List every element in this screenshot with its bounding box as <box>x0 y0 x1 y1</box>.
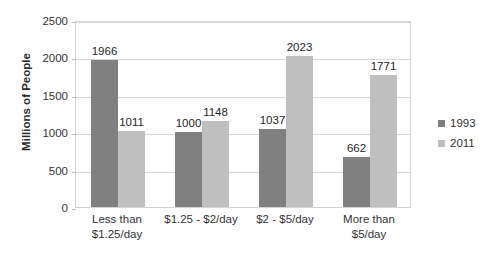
bar <box>118 131 145 207</box>
legend-item[interactable]: 2011 <box>438 133 502 153</box>
bar <box>286 56 313 207</box>
bar-value-label: 1000 <box>176 117 202 129</box>
legend-label: 1993 <box>450 117 476 129</box>
x-axis-category-labels: Less than$1.25/day$1.25 - $2/day$2 - $5/… <box>75 212 411 264</box>
bar <box>91 60 118 207</box>
bar-value-label: 1966 <box>92 45 118 57</box>
x-axis-category-label: $1.25 - $2/day <box>164 212 238 227</box>
bars-layer: 1966101110001148103720236621771 <box>76 22 410 207</box>
bar-value-label: 2023 <box>287 41 313 53</box>
y-axis-tick-mark <box>72 209 76 210</box>
bar <box>259 129 286 207</box>
bar <box>175 132 202 207</box>
legend-swatch-icon <box>438 120 445 127</box>
x-axis-category-label: $2 - $5/day <box>256 212 314 227</box>
bar <box>343 157 370 207</box>
bar-value-label: 1771 <box>371 60 397 72</box>
legend-swatch-icon <box>438 140 445 147</box>
bar-chart: Millions of People 05001000150020002500 … <box>0 0 504 268</box>
x-axis-category-label: More than$5/day <box>343 212 395 242</box>
bar <box>370 75 397 207</box>
bar-value-label: 1148 <box>203 106 228 118</box>
bar <box>202 121 229 207</box>
y-axis-tick-label: 1500 <box>22 90 68 102</box>
plot-area: 1966101110001148103720236621771 <box>75 21 411 208</box>
y-axis-tick-label: 0 <box>22 202 68 214</box>
bar-value-label: 1037 <box>260 114 286 126</box>
y-axis-tick-label: 1000 <box>22 127 68 139</box>
y-axis-tick-label: 2000 <box>22 52 68 64</box>
legend-label: 2011 <box>450 137 475 149</box>
bar-value-label: 1011 <box>119 116 144 128</box>
y-axis-tick-labels: 05001000150020002500 <box>22 0 68 268</box>
x-axis-category-label: Less than$1.25/day <box>92 212 143 242</box>
bar-value-label: 662 <box>347 142 366 154</box>
y-axis-tick-label: 500 <box>22 165 68 177</box>
chart-legend: 19932011 <box>438 113 502 153</box>
y-axis-tick-label: 2500 <box>22 15 68 27</box>
legend-item[interactable]: 1993 <box>438 113 502 133</box>
